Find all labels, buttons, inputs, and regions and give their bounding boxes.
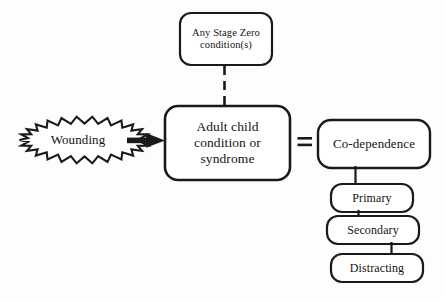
- equals-sign-glyph: [298, 137, 313, 146]
- diagram-canvas: Any Stage Zero condition(s) Adult child …: [0, 0, 446, 302]
- diagram-graphics: [0, 0, 446, 302]
- node-codependence-box[interactable]: [318, 120, 430, 168]
- node-primary-box[interactable]: [331, 184, 413, 212]
- node-adult-child-box[interactable]: [165, 106, 290, 180]
- node-secondary-box[interactable]: [327, 216, 419, 244]
- node-stage-zero-box[interactable]: [180, 13, 272, 65]
- node-distracting-box[interactable]: [331, 254, 423, 282]
